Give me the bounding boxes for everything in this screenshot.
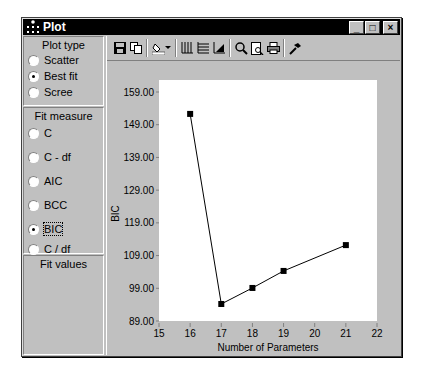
fill-color-dropdown[interactable] <box>164 41 172 55</box>
y-tick-label: 159.00 <box>123 87 154 98</box>
axis-scale-icon <box>213 42 226 54</box>
maximize-button[interactable]: □ <box>365 21 380 34</box>
radio-label: AIC <box>44 175 62 187</box>
copy-icon <box>130 42 142 54</box>
chart: 159.00149.00139.00129.00119.00109.0099.0… <box>107 61 402 357</box>
radio-label: Scatter <box>44 54 79 66</box>
fit-measure-group: Fit measure C C - df AIC BCC BIC <box>23 107 104 254</box>
save-button[interactable] <box>113 41 127 55</box>
options-panel: Plot type Scatter Best fit Scree Fit mea… <box>23 36 104 355</box>
radio-c-df[interactable]: C - df <box>28 150 71 164</box>
print-preview-icon <box>251 42 264 55</box>
fit-measure-title: Fit measure <box>24 110 103 122</box>
print-icon <box>267 42 280 54</box>
toolbar <box>107 36 400 61</box>
y-tick-label: 99.00 <box>129 283 154 294</box>
y-axis-label: BIC <box>110 205 121 222</box>
data-point-marker <box>218 301 224 307</box>
x-axis-label: Number of Parameters <box>217 342 318 353</box>
radio-button-icon <box>28 87 39 98</box>
radio-button-selected-icon <box>28 224 39 235</box>
horizontal-grid-icon <box>197 42 210 54</box>
x-tick-label: 21 <box>340 328 352 339</box>
radio-label: Best fit <box>44 70 78 82</box>
plot-window: Plot _ □ × Plot type Scatter Best fit Sc… <box>21 17 402 357</box>
data-point-marker <box>281 268 287 274</box>
x-tick-label: 17 <box>216 328 228 339</box>
app-icon <box>26 20 40 34</box>
fit-values-title: Fit values <box>24 258 103 270</box>
x-tick-label: 22 <box>371 328 383 339</box>
minimize-button[interactable]: _ <box>349 21 364 34</box>
radio-button-icon <box>28 55 39 66</box>
radio-label: C <box>44 127 52 139</box>
y-tick-label: 119.00 <box>124 217 154 228</box>
radio-label: Scree <box>44 86 73 98</box>
title-bar[interactable]: Plot _ □ × <box>23 19 400 35</box>
horizontal-grid-button[interactable] <box>196 41 210 55</box>
radio-best-fit[interactable]: Best fit <box>28 69 78 83</box>
plot-type-title: Plot type <box>24 39 103 51</box>
radio-button-icon <box>28 152 39 163</box>
print-button[interactable] <box>266 41 280 55</box>
x-tick-label: 15 <box>153 328 165 339</box>
vertical-grid-button[interactable] <box>180 41 194 55</box>
zoom-button[interactable] <box>234 41 248 55</box>
vertical-grid-icon <box>181 42 194 54</box>
window-title: Plot <box>43 20 66 34</box>
print-preview-button[interactable] <box>250 41 264 55</box>
radio-button-icon <box>28 176 39 187</box>
fill-color-icon <box>152 42 165 55</box>
properties-hammer-icon <box>289 42 302 55</box>
x-tick-label: 19 <box>278 328 290 339</box>
y-tick-label: 129.00 <box>123 185 154 196</box>
maximize-icon: □ <box>369 22 375 33</box>
radio-c[interactable]: C <box>28 126 52 140</box>
copy-button[interactable] <box>129 41 143 55</box>
radio-bcc[interactable]: BCC <box>28 198 67 212</box>
zoom-icon <box>235 42 248 55</box>
y-tick-label: 139.00 <box>123 152 154 163</box>
minimize-icon: _ <box>354 22 360 33</box>
data-point-marker <box>249 285 255 291</box>
radio-c-over-df[interactable]: C / df <box>28 242 70 256</box>
properties-button[interactable] <box>288 41 302 55</box>
plot-type-group: Plot type Scatter Best fit Scree <box>23 36 104 106</box>
y-tick-label: 109.00 <box>123 250 154 261</box>
radio-button-selected-icon <box>28 71 39 82</box>
x-tick-label: 16 <box>185 328 197 339</box>
radio-label: C / df <box>44 243 70 255</box>
data-point-marker <box>343 242 349 248</box>
radio-label: BCC <box>44 199 67 211</box>
fit-values-group: Fit values <box>23 255 104 355</box>
y-tick-label: 149.00 <box>123 119 154 130</box>
save-icon <box>114 42 126 54</box>
x-tick-label: 18 <box>247 328 259 339</box>
x-tick-label: 20 <box>309 328 321 339</box>
radio-label: C - df <box>44 151 71 163</box>
radio-button-icon <box>28 128 39 139</box>
axis-scale-button[interactable] <box>212 41 226 55</box>
close-button[interactable]: × <box>383 21 398 34</box>
dropdown-arrow-icon <box>165 46 171 50</box>
data-point-marker <box>187 111 193 117</box>
close-icon: × <box>388 22 394 33</box>
y-tick-label: 89.00 <box>129 316 154 327</box>
plot-panel: 159.00149.00139.00129.00119.00109.0099.0… <box>106 36 400 355</box>
fill-color-button[interactable] <box>151 41 165 55</box>
radio-aic[interactable]: AIC <box>28 174 62 188</box>
radio-label: BIC <box>44 223 62 235</box>
radio-button-icon <box>28 244 39 255</box>
radio-bic[interactable]: BIC <box>28 222 62 236</box>
radio-scatter[interactable]: Scatter <box>28 53 79 67</box>
radio-button-icon <box>28 200 39 211</box>
radio-scree[interactable]: Scree <box>28 85 73 99</box>
